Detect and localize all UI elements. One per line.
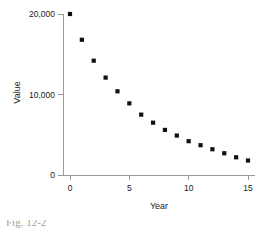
x-tick-label: 15 xyxy=(243,183,253,193)
data-point-marker xyxy=(175,133,179,137)
data-point-marker xyxy=(222,151,226,155)
y-axis-title: Value xyxy=(12,81,22,103)
data-point-marker xyxy=(127,101,131,105)
data-point-marker xyxy=(139,113,143,117)
y-tick-group: 010,00020,000 xyxy=(29,9,63,180)
data-point-marker xyxy=(210,147,214,151)
figure-caption: Fig. 12-2 xyxy=(6,220,76,228)
x-tick-label: 0 xyxy=(68,183,73,193)
data-point-marker xyxy=(234,155,238,159)
x-tick-label: 5 xyxy=(127,183,132,193)
data-point-marker xyxy=(80,38,84,42)
y-tick-label: 10,000 xyxy=(29,90,55,100)
data-point-marker xyxy=(163,128,167,132)
figure-container: 010,00020,000 051015 Value Year Fig. 12-… xyxy=(0,0,276,228)
data-point-marker xyxy=(187,139,191,143)
scatter-chart: 010,00020,000 051015 Value Year xyxy=(0,0,276,228)
data-point-marker xyxy=(246,158,250,162)
axes-group xyxy=(63,14,255,175)
x-axis-title: Year xyxy=(150,201,168,211)
data-point-marker xyxy=(104,75,108,79)
x-tick-label: 10 xyxy=(184,183,194,193)
data-point-marker xyxy=(68,12,72,16)
y-tick-label: 0 xyxy=(50,170,55,180)
x-tick-group: 051015 xyxy=(68,175,253,193)
data-points-group xyxy=(68,12,250,163)
figure-caption-strip: Fig. 12-2 xyxy=(6,220,76,228)
data-point-marker xyxy=(92,59,96,63)
y-tick-label: 20,000 xyxy=(29,9,55,19)
data-point-marker xyxy=(198,143,202,147)
data-point-marker xyxy=(115,89,119,93)
data-point-marker xyxy=(151,121,155,125)
